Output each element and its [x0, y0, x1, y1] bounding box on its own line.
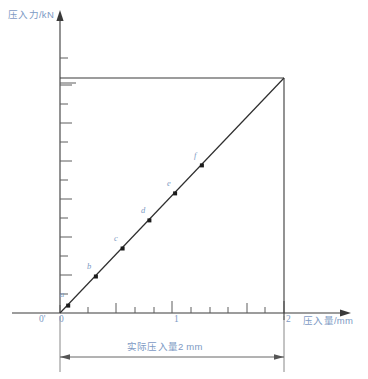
- x-axis-label: 压入量/mm: [303, 316, 353, 326]
- point-label-d: d: [141, 206, 145, 215]
- data-point-f: [200, 163, 204, 167]
- data-line: [60, 78, 284, 313]
- origin-prime-label: 0': [39, 315, 45, 325]
- point-label-c: c: [114, 234, 118, 243]
- top-reference-line: [60, 78, 284, 83]
- dimension-arrowhead-left: [60, 354, 70, 360]
- figure-root: 压入力/kN 压入量/mm 0' 0 1 2 a b c d e f 实际压入量…: [0, 0, 368, 379]
- data-point-b: [94, 275, 98, 279]
- point-label-b: b: [87, 262, 91, 271]
- data-point-c: [121, 247, 125, 251]
- data-point-a: [66, 304, 70, 308]
- x-tick-label-2: 2: [286, 315, 291, 325]
- point-label-f: f: [194, 151, 196, 160]
- y-axis-ticks: [60, 58, 72, 294]
- dimension-label: 实际压入量2 mm: [127, 342, 203, 352]
- data-point-d: [147, 218, 151, 222]
- origin-label: 0: [59, 315, 64, 325]
- y-axis-label: 压入力/kN: [8, 10, 54, 20]
- point-label-a: a: [60, 290, 64, 299]
- data-points: [66, 163, 204, 307]
- dimension-arrowhead-right: [274, 354, 284, 360]
- y-axis-arrowhead: [56, 10, 63, 21]
- x-tick-label-1: 1: [174, 315, 179, 325]
- data-point-e: [173, 191, 177, 195]
- point-label-e: e: [167, 179, 171, 188]
- x-axis-ticks: [60, 301, 284, 313]
- dimension-arrow: [60, 354, 284, 360]
